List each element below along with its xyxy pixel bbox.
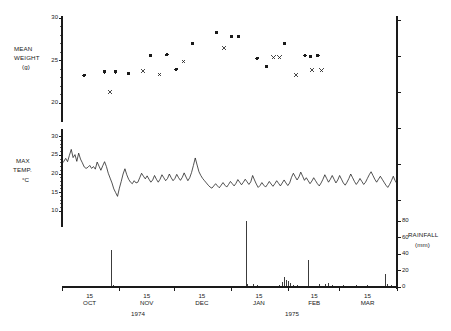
x-axis-month-label-NOV: NOV (133, 299, 161, 306)
weight-point-circle (309, 55, 313, 59)
weight-tick-label-25: 25 (40, 57, 58, 63)
rainfall-tick-label-80: 80 (402, 217, 418, 223)
weight-point-circle (165, 53, 169, 57)
x-axis-month-label-DEC: DEC (188, 299, 216, 306)
x-axis-month-label-MAR: MAR (354, 299, 382, 306)
weight-point-circle (237, 35, 241, 39)
weight-point-circle (230, 35, 234, 39)
weight-point-circle (283, 42, 287, 46)
weight-point-circle (265, 65, 269, 69)
rainfall-tick-label-60: 60 (402, 234, 418, 240)
temp-tick-label-10: 10 (40, 207, 58, 213)
climate-weight-figure: MEAN WEIGHT (g) MAX TEMP. °C RAINFALL (m… (0, 0, 451, 331)
temp-tick-label-30: 30 (40, 133, 58, 139)
rainfall-tick-label-40: 40 (402, 250, 418, 256)
rainfall-tick-label-20: 20 (402, 267, 418, 273)
temperature-line (62, 149, 397, 196)
weight-point-circle (82, 74, 86, 78)
temp-tick-label-15: 15 (40, 189, 58, 195)
weight-point-circle (149, 54, 153, 58)
weight-point-circle (103, 70, 107, 74)
temp-tick-label-20: 20 (40, 170, 58, 176)
x-axis-month-label-JAN: JAN (245, 299, 273, 306)
weight-point-circle (114, 70, 118, 74)
rainfall-tick-label-0: 0 (402, 283, 418, 289)
weight-point-circle (255, 56, 259, 60)
weight-point-circle (191, 42, 195, 46)
weight-point-circle (303, 54, 307, 58)
x-axis-month-label-OCT: OCT (76, 299, 104, 306)
weight-point-circle (316, 54, 320, 58)
weight-point-circle (127, 72, 131, 76)
weight-point-circle (174, 68, 178, 72)
x-axis-month-label-FEB: FEB (300, 299, 328, 306)
temp-tick-label-25: 25 (40, 151, 58, 157)
weight-tick-label-20: 20 (40, 99, 58, 105)
weight-tick-label-30: 30 (40, 14, 58, 20)
weight-point-circle (215, 31, 219, 35)
